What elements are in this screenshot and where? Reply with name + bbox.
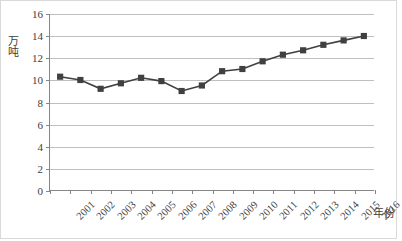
data-point-marker [199, 82, 205, 88]
y-axis-tick-label: 10 [32, 74, 43, 86]
y-axis-tick-label: 2 [38, 163, 44, 175]
data-point-marker [300, 47, 306, 53]
x-axis-tick-label: 2011 [277, 199, 299, 221]
x-axis-tick-label: 2004 [135, 199, 158, 222]
data-point-marker [341, 37, 347, 43]
x-axis-title: 年份 [373, 204, 395, 220]
data-point-marker [179, 88, 185, 94]
x-axis-tick-label: 2009 [237, 199, 260, 222]
data-point-marker [219, 68, 225, 74]
y-axis-tick-label: 12 [32, 52, 43, 64]
y-axis-tick-label: 0 [38, 185, 44, 197]
x-axis-tick-label: 2002 [95, 199, 118, 222]
y-axis-tick-label: 4 [38, 141, 44, 153]
data-point-marker [77, 77, 83, 83]
data-point-marker [361, 33, 367, 39]
data-point-marker [280, 52, 286, 58]
data-point-marker [57, 74, 63, 80]
y-axis-tick-label: 14 [32, 30, 43, 42]
y-axis-title: 万吨 [7, 35, 18, 57]
x-axis-tick-label: 2012 [298, 199, 321, 222]
x-axis-tick-label: 2013 [318, 199, 341, 222]
plot-area: 0246810121416 [49, 14, 374, 191]
x-axis-tick [375, 190, 376, 194]
data-point-marker [98, 86, 104, 92]
series-line [60, 36, 364, 91]
data-point-marker [320, 42, 326, 48]
y-axis-tick-label: 16 [32, 8, 43, 20]
x-axis-tick-label: 2007 [196, 199, 219, 222]
x-axis-tick-label: 2008 [216, 199, 239, 222]
x-axis-tick-label: 2005 [156, 199, 179, 222]
data-point-marker [158, 78, 164, 84]
y-axis-tick-label: 6 [38, 119, 44, 131]
data-point-marker [239, 66, 245, 72]
x-axis-tick-label: 2001 [74, 199, 97, 222]
data-point-marker [260, 58, 266, 64]
x-axis-labels-group: 2001200220032004200520062007200820092010… [49, 191, 374, 236]
x-axis-tick-label: 2006 [176, 199, 199, 222]
y-axis-tick-label: 8 [38, 97, 44, 109]
x-axis-tick-label: 2003 [115, 199, 138, 222]
data-point-marker [138, 75, 144, 81]
chart-container: 万吨 0246810121416 20012002200320042005200… [0, 0, 397, 239]
x-axis-tick-label: 2010 [257, 199, 280, 222]
data-series-group [50, 14, 374, 190]
x-axis-tick-label: 2014 [338, 199, 361, 222]
data-point-marker [118, 80, 124, 86]
